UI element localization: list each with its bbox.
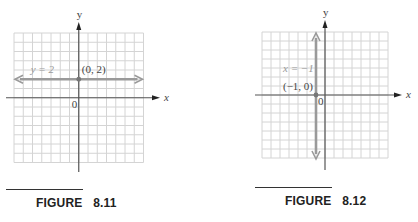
equation-label: y = 2 xyxy=(30,63,55,75)
axes xyxy=(6,22,160,172)
figure-8-11-graph: y x 0 y = 2 (0, 2) xyxy=(6,8,169,172)
y-axis-label: y xyxy=(323,6,329,18)
origin-label: 0 xyxy=(318,95,324,107)
figure-caption: FIGURE 8.12 xyxy=(285,194,366,208)
axes xyxy=(255,20,402,170)
y-axis-arrow-icon xyxy=(323,20,328,28)
y-axis-arrow-icon xyxy=(76,22,81,30)
x-axis-arrow-icon xyxy=(394,93,402,98)
figure-caption: FIGURE 8.11 xyxy=(36,196,117,210)
caption-rule xyxy=(6,189,83,190)
point-label: (0, 2) xyxy=(82,63,106,76)
point-marker xyxy=(76,77,81,82)
x-axis-arrow-icon xyxy=(152,95,160,100)
point-label: (−1, 0) xyxy=(283,80,313,93)
caption-rule xyxy=(255,187,332,188)
origin-label: 0 xyxy=(72,98,78,110)
x-axis-label: x xyxy=(163,91,169,103)
figure-8-12-graph: y x 0 x = −1 (−1, 0) xyxy=(255,6,411,170)
equation-label: x = −1 xyxy=(282,62,314,74)
x-axis-label: x xyxy=(405,88,411,100)
y-axis-label: y xyxy=(77,8,83,20)
